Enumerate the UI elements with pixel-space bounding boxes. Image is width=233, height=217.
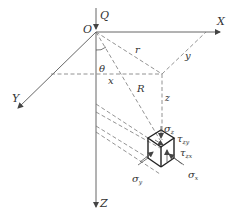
R-line	[96, 32, 160, 140]
origin-label: O	[83, 23, 92, 36]
stress-diagram: Q O X Y Z θ r R x y z σz σy σx τzy τzx	[0, 0, 233, 217]
tau-yz-label: τzy	[177, 133, 190, 146]
sigma-x-label: σx	[188, 169, 199, 181]
cube-guide-1	[96, 104, 148, 138]
sigma-y-label: σy	[132, 173, 143, 186]
R-label: R	[136, 83, 145, 94]
x-axis-label: X	[216, 15, 226, 28]
theta-label: θ	[99, 63, 105, 74]
cube-guide-2	[96, 112, 160, 148]
r-label: r	[135, 44, 141, 55]
sigma-z-label: σz	[164, 123, 175, 135]
y-coord-label: y	[184, 50, 191, 61]
r-line	[96, 32, 162, 74]
z-axis-label: Z	[99, 197, 108, 210]
tau-zx-label: τzx	[180, 147, 193, 159]
load-label: Q	[100, 9, 109, 22]
y-axis-label: Y	[12, 92, 21, 105]
x-coord-label: x	[108, 75, 114, 86]
cube-guide-4	[96, 132, 160, 174]
y-projection-line	[162, 32, 206, 74]
z-coord-label: z	[164, 93, 170, 103]
y-axis	[18, 32, 96, 108]
cube-guide-3	[96, 126, 148, 158]
theta-arc	[96, 47, 106, 50]
labels: Q O X Y Z θ r R x y z σz σy σx τzy τzx	[12, 9, 226, 210]
